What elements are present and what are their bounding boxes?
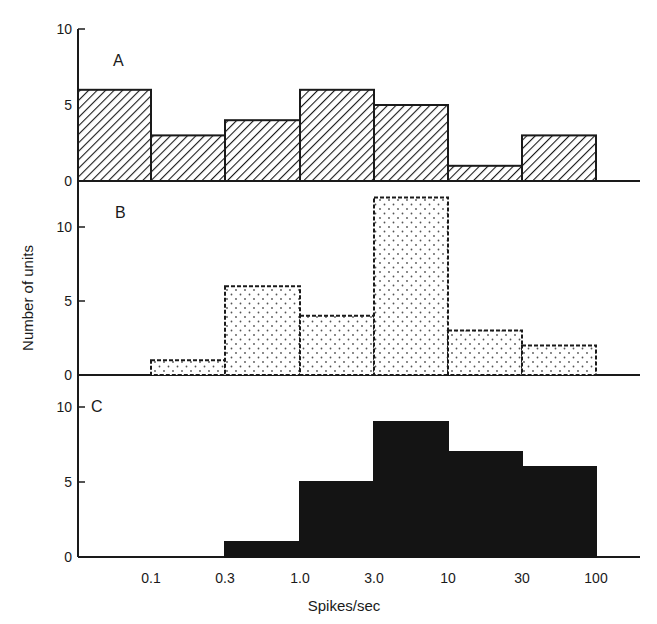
y-tick-label: 10 — [56, 399, 72, 415]
x-tick-label: 100 — [584, 570, 608, 586]
histogram-bar — [300, 316, 374, 375]
histogram-bar — [225, 542, 300, 557]
y-tick-label: 0 — [64, 367, 72, 383]
y-tick-label: 5 — [64, 474, 72, 490]
histogram-bar — [448, 331, 522, 375]
y-axis-title: Number of units — [19, 245, 36, 351]
histogram-bar — [448, 452, 522, 557]
histogram-bar — [225, 120, 300, 181]
x-axis-tick-labels: 0.10.31.03.01030100 — [141, 570, 608, 586]
y-tick-label: 5 — [64, 293, 72, 309]
y-tick-label: 0 — [64, 173, 72, 189]
histogram-bar — [300, 482, 374, 557]
histogram-bar — [374, 197, 448, 375]
y-tick-label: 10 — [56, 219, 72, 235]
histogram-bar — [374, 105, 448, 181]
y-tick-label: 10 — [56, 21, 72, 37]
histogram-figure: 0510 0510 0510 A B C Number of units 0.1… — [0, 0, 657, 624]
histogram-bar — [448, 166, 522, 181]
panel-label-b: B — [115, 204, 126, 221]
x-axis-title: Spikes/sec — [308, 597, 381, 614]
histogram-bar — [151, 360, 225, 375]
panel-a: 0510 — [56, 21, 640, 189]
y-tick-label: 5 — [64, 97, 72, 113]
panel-label-c: C — [91, 398, 103, 415]
x-tick-label: 0.3 — [215, 570, 235, 586]
x-tick-label: 3.0 — [364, 570, 384, 586]
histogram-bar — [522, 467, 596, 557]
histogram-bar — [522, 135, 596, 181]
histogram-bar — [300, 90, 374, 181]
histogram-bar — [225, 286, 300, 375]
histogram-bar — [78, 90, 151, 181]
panel-label-a: A — [113, 52, 124, 69]
x-tick-label: 1.0 — [290, 570, 310, 586]
x-tick-label: 30 — [514, 570, 530, 586]
panel-b: 0510 — [56, 197, 640, 383]
x-tick-label: 10 — [440, 570, 456, 586]
y-tick-label: 0 — [64, 549, 72, 565]
x-tick-label: 0.1 — [141, 570, 161, 586]
histogram-bar — [151, 135, 225, 181]
panel-c: 0510 — [56, 399, 640, 565]
histogram-bar — [522, 345, 596, 375]
histogram-bar — [374, 422, 448, 557]
